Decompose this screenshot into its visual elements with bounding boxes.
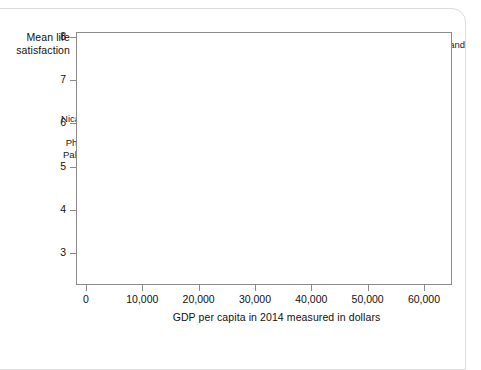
x-tick-label: 50,000 [352, 293, 384, 305]
x-tick-label: 20,000 [183, 293, 215, 305]
x-tick-mark [311, 285, 312, 291]
x-tick-mark [199, 285, 200, 291]
x-tick-mark [142, 285, 143, 291]
x-axis-title: GDP per capita in 2014 measured in dolla… [0, 311, 481, 323]
y-tick-label: 7 [48, 73, 66, 85]
x-tick-label: 60,000 [408, 293, 440, 305]
y-tick-label: 3 [48, 246, 66, 258]
y-axis-title-line-2: satisfaction [4, 44, 70, 57]
x-tick-mark [424, 285, 425, 291]
x-tick-label: 30,000 [239, 293, 271, 305]
y-tick-label: 4 [48, 203, 66, 215]
x-tick-mark [255, 285, 256, 291]
x-tick-mark [368, 285, 369, 291]
x-tick-mark [86, 285, 87, 291]
x-tick-label: 0 [83, 293, 89, 305]
x-tick-label: 40,000 [295, 293, 327, 305]
y-tick-label: 5 [48, 160, 66, 172]
y-tick-label: 8 [48, 30, 66, 42]
x-tick-label: 10,000 [126, 293, 158, 305]
plot-frame [76, 32, 452, 285]
